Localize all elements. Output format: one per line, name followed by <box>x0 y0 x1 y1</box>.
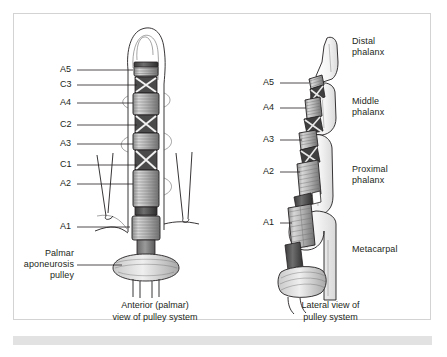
label-a3-anterior: A3 <box>60 138 71 149</box>
label-proximal-phalanx: Proximal phalanx <box>352 164 388 186</box>
pulley-a4 <box>133 93 159 115</box>
lateral-view <box>278 37 338 314</box>
palmar-aponeurosis-pulley <box>113 254 179 298</box>
label-palmar-aponeurosis-pulley: Palmar aponeurosis pulley <box>0 248 74 281</box>
caption-lateral-view: Lateral view of pulley system <box>258 299 403 323</box>
label-a5-lateral: A5 <box>263 77 274 88</box>
pulley-a1-lateral <box>288 204 315 249</box>
pulley-c2 <box>135 115 157 133</box>
label-a2-lateral: A2 <box>263 166 274 177</box>
label-distal-phalanx: Distal phalanx <box>352 36 384 58</box>
pulley-c1 <box>135 150 157 170</box>
pulley-a2 <box>133 170 159 207</box>
label-a4-anterior: A4 <box>60 97 71 108</box>
label-a4-lateral: A4 <box>263 102 274 113</box>
tendon-segment-dark <box>135 207 157 215</box>
pulley-a1 <box>132 216 160 240</box>
label-metacarpal: Metacarpal <box>352 244 398 255</box>
caption-anterior-view: Anterior (palmar) view of pulley system <box>80 299 230 323</box>
pulley-a3 <box>133 133 159 150</box>
label-a1-lateral: A1 <box>263 217 274 228</box>
pulley-c3 <box>135 77 157 93</box>
label-a2-anterior: A2 <box>60 178 71 189</box>
label-c3-anterior: C3 <box>60 79 72 90</box>
label-a1-anterior: A1 <box>60 221 71 232</box>
anterior-palmar-view <box>95 28 199 298</box>
palmar-aponeurosis-lateral <box>278 267 326 298</box>
label-a5-anterior: A5 <box>60 64 71 75</box>
label-c1-anterior: C1 <box>60 159 72 170</box>
pulley-a5 <box>134 62 158 76</box>
label-middle-phalanx: Middle phalanx <box>352 96 384 118</box>
label-c2-anterior: C2 <box>60 119 72 130</box>
label-a3-lateral: A3 <box>263 134 274 145</box>
